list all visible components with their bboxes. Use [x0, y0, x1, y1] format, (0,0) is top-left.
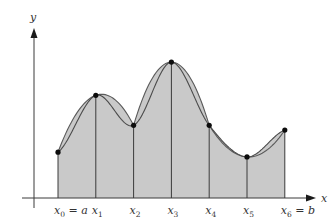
y-axis-arrow-icon — [31, 28, 38, 38]
x-axis-arrow-icon — [306, 195, 316, 202]
partition-labels: x0 = ax1x2x3x4x5x6 = b — [54, 204, 315, 219]
partition-point — [55, 150, 60, 155]
partition-label: x4 — [205, 204, 216, 219]
partition-point — [244, 154, 249, 159]
y-axis-label: y — [29, 11, 37, 24]
partition-point — [207, 123, 212, 128]
partition-point — [131, 123, 136, 128]
partition-label: x0 = a — [54, 204, 88, 219]
partition-point — [169, 60, 174, 65]
partition-point — [282, 127, 287, 132]
simpsons-rule-diagram: x y x0 = ax1x2x3x4x5x6 = b — [0, 0, 329, 224]
partition-point — [93, 93, 98, 98]
partition-label: x1 — [92, 204, 103, 219]
partition-label: x2 — [130, 204, 141, 219]
partition-label: x5 — [243, 204, 254, 219]
x-axis-label: x — [321, 192, 328, 205]
partition-label: x3 — [167, 204, 178, 219]
partition-label: x6 = b — [281, 204, 315, 219]
